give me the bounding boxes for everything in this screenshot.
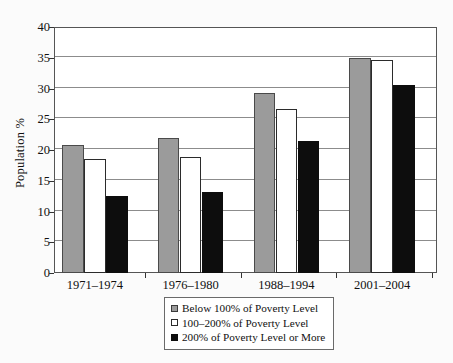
bar [180, 157, 202, 273]
bar-chart: Population % 0510152025303540 1971–19741… [0, 0, 453, 363]
bar [202, 192, 224, 273]
x-axis-tick-label: 1988–1994 [236, 278, 336, 293]
legend-item[interactable]: Below 100% of Poverty Level [171, 301, 327, 316]
bar [371, 60, 393, 273]
bar [298, 141, 320, 273]
bar [84, 159, 106, 273]
bars-layer [54, 27, 437, 273]
legend-item[interactable]: 100–200% of Poverty Level [171, 316, 327, 331]
bar [393, 85, 415, 273]
bar-group [254, 27, 320, 273]
y-axis-tick-label: 15 [20, 175, 50, 188]
legend-item[interactable]: 200% of Poverty Level or More [171, 330, 327, 345]
y-axis-tick-label: 20 [20, 144, 50, 157]
x-axis-tick-label: 1976–1980 [141, 278, 241, 293]
legend-label-series-0: Below 100% of Poverty Level [182, 301, 318, 316]
bar-group [158, 27, 224, 273]
y-axis-tick-label: 35 [20, 52, 50, 65]
y-axis-title: Population % [13, 0, 28, 93]
y-axis-tick-label: 25 [20, 113, 50, 126]
y-axis-tick-mark [49, 273, 54, 274]
bar [62, 145, 84, 273]
bar-group [349, 27, 415, 273]
legend-swatch-series-1-icon [171, 319, 178, 326]
bar [349, 58, 371, 273]
x-axis-tick-label: 1971–1974 [45, 278, 145, 293]
bar [158, 138, 180, 273]
legend-box: Below 100% of Poverty Level 100–200% of … [164, 297, 334, 350]
x-axis-tick-label: 2001–2004 [332, 278, 432, 293]
y-axis-tick-label: 40 [20, 21, 50, 34]
y-axis-tick-label: 10 [20, 206, 50, 219]
legend-swatch-series-0-icon [171, 305, 178, 312]
legend-label-series-1: 100–200% of Poverty Level [182, 316, 308, 331]
legend-label-series-2: 200% of Poverty Level or More [182, 330, 325, 345]
x-axis-tick-mark [432, 273, 433, 278]
bar [254, 93, 276, 273]
bar [276, 109, 298, 273]
bar-group [62, 27, 128, 273]
bar [106, 196, 128, 273]
legend-swatch-series-2-icon [171, 334, 178, 341]
y-axis-tick-label: 5 [20, 236, 50, 249]
y-axis-tick-label: 30 [20, 83, 50, 96]
